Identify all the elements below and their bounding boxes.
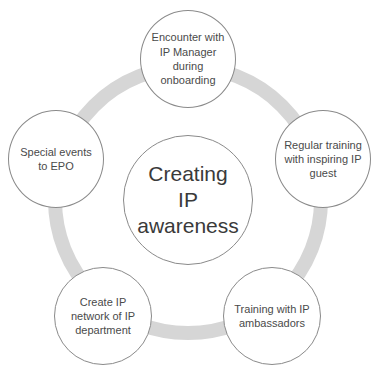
center-line-3: awareness (129, 213, 247, 239)
center-line-2: IP (129, 187, 247, 213)
center-node: Creating IP awareness (123, 135, 253, 265)
node-ip-network: Create IP network of IP department (54, 267, 152, 365)
node-label: Regular training with inspiring IP guest (276, 138, 370, 181)
center-line-1: Creating (129, 161, 247, 187)
node-regular-training: Regular training with inspiring IP guest (275, 110, 371, 208)
node-label: Special events to EPO (9, 145, 103, 174)
node-label: Create IP network of IP department (55, 295, 151, 338)
node-label: Training with IP ambassadors (224, 302, 320, 331)
node-onboarding: Encounter with IP Manager during onboard… (140, 10, 236, 108)
node-label: Encounter with IP Manager during onboard… (141, 30, 235, 87)
node-ambassadors: Training with IP ambassadors (223, 267, 321, 365)
node-special-events: Special events to EPO (8, 110, 104, 208)
